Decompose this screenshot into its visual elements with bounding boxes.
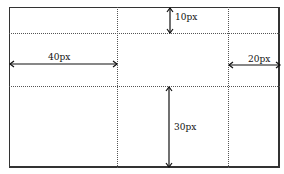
top-margin-label: 10px [175,12,197,22]
right-margin-label: 20px [248,54,270,64]
left-margin-label: 40px [48,52,70,62]
bottom-margin-label: 30px [174,122,196,132]
arrows [0,0,284,174]
